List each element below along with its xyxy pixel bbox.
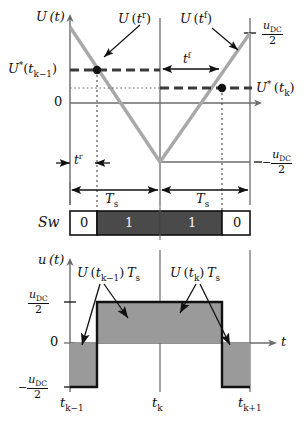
switch-cell-value-3: 0	[233, 216, 241, 229]
time-tick-k-plus-1-label: tk+1	[238, 396, 262, 412]
switch-state-row	[70, 205, 250, 240]
time-tick-k-minus-1-label: tk−1	[60, 396, 84, 412]
carrier-callout-arrows	[104, 25, 238, 57]
upper-plot-axes	[66, 14, 262, 205]
sampling-period-left-label: Ts	[105, 192, 118, 208]
lower-zero-label: 0	[50, 335, 58, 348]
lower-udc-half-negative-label: −uDC2	[18, 374, 48, 401]
lower-udc-half-positive-label: uDC2	[28, 289, 49, 316]
reference-prev-label: U*(tk−1)	[8, 61, 57, 79]
switch-row-label: Sw	[38, 215, 60, 229]
time-tick-k-label: tk	[152, 396, 163, 412]
sampling-period-right-label: Ts	[196, 192, 209, 208]
pwm-timing-figure: U (t) U (tr) U (tf) U*(tk−1) U* (tk) 0 t…	[0, 0, 307, 426]
t-fall-label: tf	[183, 52, 191, 65]
t-rise-label: tr	[74, 153, 83, 166]
volt-second-curr-label: U (tk) Ts	[170, 266, 220, 282]
reference-curr-label: U* (tk)	[256, 80, 295, 98]
lower-x-axis-label: t	[281, 335, 286, 348]
switch-cell-value-2: 1	[188, 216, 196, 229]
lower-y-axis-label: u (t)	[38, 253, 64, 266]
rising-edge-carrier-label: U (tr)	[118, 11, 151, 25]
falling-edge-carrier-label: U (tf)	[180, 11, 212, 25]
volt-second-prev-label: U (tk−1) Ts	[77, 266, 140, 282]
udc-half-positive-label: uDC2	[262, 20, 283, 47]
upper-y-axis-label: U (t)	[36, 10, 65, 23]
switch-cell-value-0: 0	[80, 216, 88, 229]
upper-zero-label: 0	[54, 95, 62, 108]
udc-half-negative-label: −uDC2	[262, 149, 292, 176]
switch-cell-value-1: 1	[125, 216, 133, 229]
